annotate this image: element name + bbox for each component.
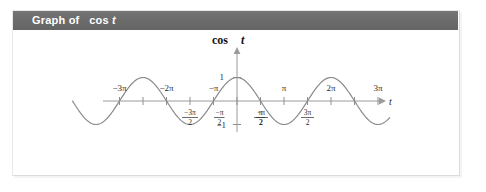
x-axis: t: [103, 96, 392, 107]
plot-area: t: [13, 30, 458, 175]
header-variable: t: [112, 14, 116, 26]
x-label-2pi: 2π: [326, 83, 336, 93]
header-function: cos: [89, 14, 109, 26]
frac-numerator: 3π: [304, 108, 312, 117]
x-label-3pi: 3π: [373, 83, 383, 93]
x-label-minus-2pi: −2π: [159, 83, 174, 93]
x-axis-arrow-icon: [379, 98, 386, 105]
x-label-minus-3pi: −3π: [112, 83, 127, 93]
x-axis-label: t: [389, 96, 392, 107]
y-axis-arrow-icon: [234, 47, 241, 54]
frac-numerator: −π: [215, 108, 223, 117]
frac-denominator: 2: [259, 118, 263, 127]
y-axis: [234, 47, 241, 132]
x-label-pi-over-2-right: 3π 2: [301, 108, 314, 127]
figure-header-label: Graph of cos t: [32, 14, 116, 26]
x-label-minus-3pi-over-2: −3π 2: [182, 108, 198, 127]
frac-denominator: 2: [218, 118, 222, 127]
header-prefix: Graph of: [32, 14, 79, 26]
frac-denominator: 2: [188, 118, 192, 127]
graph-title-function: cos: [212, 33, 228, 47]
figure-header-bar: Graph of cos t: [13, 11, 458, 30]
graph-title-variable: t: [241, 33, 245, 47]
graph-title: cos t: [212, 33, 245, 47]
frac-numerator: π: [259, 108, 263, 117]
y-label-one: 1: [220, 72, 225, 82]
figure-root: Graph of cos t t: [0, 0, 486, 192]
cosine-plot-svg: t: [13, 30, 458, 175]
frac-denominator: 2: [306, 118, 310, 127]
x-label-minus-pi: −π: [209, 83, 219, 93]
frac-numerator: −3π: [184, 108, 196, 117]
x-label-pi: π: [282, 83, 287, 93]
